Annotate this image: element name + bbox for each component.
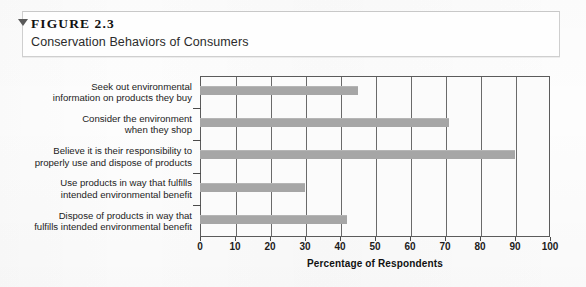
bar-chart: Seek out environmentalinformation on pro… [0, 62, 586, 277]
scan-artifact [10, 266, 70, 282]
category-labels: Seek out environmentalinformation on pro… [0, 76, 192, 237]
category-label: Use products in way that fulfillsintende… [12, 177, 192, 200]
x-axis-tick-label: 90 [509, 241, 520, 252]
figure-title: Conservation Behaviors of Consumers [31, 35, 249, 49]
category-label-line: when they shop [12, 124, 192, 135]
bar[interactable] [200, 215, 347, 224]
category-label: Believe it is their responsibility topro… [12, 145, 192, 168]
category-label: Dispose of products in way thatfulfills … [12, 210, 192, 233]
bar[interactable] [200, 150, 515, 159]
bar-row [200, 205, 550, 237]
x-axis-tick-label: 70 [439, 241, 450, 252]
y-axis-tick [193, 205, 201, 206]
x-axis-title: Percentage of Respondents [200, 258, 550, 269]
category-label-line: intended environmental benefit [12, 189, 192, 200]
x-axis-tick-label: 50 [369, 241, 380, 252]
category-label: Consider the environmentwhen they shop [12, 113, 192, 136]
category-label-line: Seek out environmental [12, 81, 192, 92]
y-axis-tick [193, 140, 201, 141]
y-axis-tick [193, 173, 201, 174]
category-label-line: fulfills intended environmental benefit [12, 221, 192, 232]
category-label-line: Dispose of products in way that [12, 210, 192, 221]
x-axis-tick-label: 60 [404, 241, 415, 252]
x-axis-tick-label: 30 [299, 241, 310, 252]
category-label: Seek out environmentalinformation on pro… [12, 81, 192, 104]
triangle-down-icon [18, 19, 28, 26]
x-axis-tick-label: 40 [334, 241, 345, 252]
x-axis-tick-labels: 0102030405060708090100 [200, 241, 550, 255]
x-axis-tick-label: 100 [542, 241, 559, 252]
bar-row [200, 140, 550, 172]
x-axis-tick-label: 80 [474, 241, 485, 252]
category-label-line: information on products they buy [12, 92, 192, 103]
bar-row [200, 108, 550, 140]
category-label-line: Consider the environment [12, 113, 192, 124]
bar-row [200, 76, 550, 108]
x-axis-tick-label: 10 [229, 241, 240, 252]
x-axis-tick-label: 0 [197, 241, 203, 252]
x-axis-tick-label: 20 [264, 241, 275, 252]
bar[interactable] [200, 118, 449, 127]
figure-number-label: FIGURE 2.3 [31, 16, 115, 32]
bar-row [200, 173, 550, 205]
y-axis-tick [193, 108, 201, 109]
bar[interactable] [200, 86, 358, 95]
category-label-line: properly use and dispose of products [12, 157, 192, 168]
bars-layer [200, 76, 550, 237]
category-label-line: Use products in way that fulfills [12, 177, 192, 188]
bar[interactable] [200, 183, 305, 192]
figure-caption-box: FIGURE 2.3 Conservation Behaviors of Con… [22, 11, 560, 57]
category-label-line: Believe it is their responsibility to [12, 145, 192, 156]
